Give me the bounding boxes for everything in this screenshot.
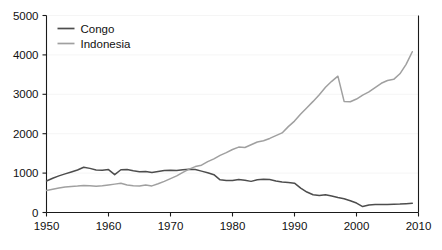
y-tick-label: 1000 xyxy=(13,167,39,179)
series-lines xyxy=(47,52,413,207)
x-tick-label: 2000 xyxy=(344,220,370,232)
chart-figure: 1950196019701980199020002010 01000200030… xyxy=(0,0,442,250)
y-tick-label: 4000 xyxy=(13,49,39,61)
legend-label-indonesia: Indonesia xyxy=(81,38,131,50)
x-tick-label: 1980 xyxy=(220,220,246,232)
x-tick-label: 1990 xyxy=(282,220,308,232)
y-tick-label: 5000 xyxy=(13,10,39,22)
x-axis-tick-labels: 1950196019701980199020002010 xyxy=(34,220,432,232)
x-tick-label: 2010 xyxy=(406,220,432,232)
y-tick-label: 0 xyxy=(32,207,38,219)
legend-label-congo: Congo xyxy=(81,23,115,35)
x-tick-label: 1960 xyxy=(96,220,122,232)
y-tick-label: 3000 xyxy=(13,88,39,100)
line-chart: 1950196019701980199020002010 01000200030… xyxy=(0,0,442,250)
y-axis-tick-labels: 010002000300040005000 xyxy=(13,10,39,219)
y-tick-label: 2000 xyxy=(13,128,39,140)
chart-legend: CongoIndonesia xyxy=(58,23,131,50)
x-tick-label: 1950 xyxy=(34,220,60,232)
x-tick-label: 1970 xyxy=(158,220,184,232)
